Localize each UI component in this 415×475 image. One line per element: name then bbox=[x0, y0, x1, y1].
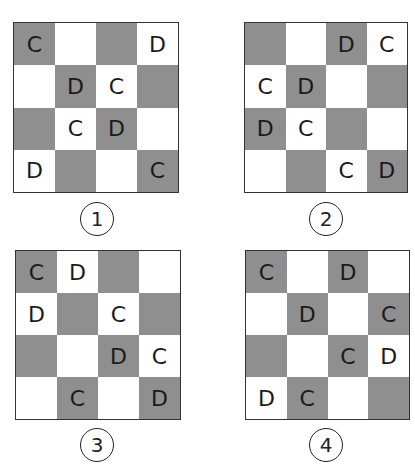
grid-cell bbox=[367, 108, 408, 150]
grid-cell bbox=[57, 293, 98, 335]
grid-cell: D bbox=[57, 251, 98, 293]
grid-cell bbox=[245, 150, 286, 192]
grid-cell: D bbox=[326, 23, 367, 65]
grid-cell: D bbox=[328, 251, 369, 293]
grid-cell bbox=[326, 65, 367, 107]
grid-cell bbox=[96, 150, 137, 192]
option-label-1[interactable]: 1 bbox=[80, 202, 114, 236]
grid-cell bbox=[245, 23, 286, 65]
grid-cell bbox=[14, 108, 55, 150]
grid-cell bbox=[96, 23, 137, 65]
grid-cell: D bbox=[286, 65, 327, 107]
grid-cell: C bbox=[326, 150, 367, 192]
grid-cell: C bbox=[368, 293, 409, 335]
grid-cell: D bbox=[246, 377, 287, 419]
grid-cell: D bbox=[245, 108, 286, 150]
grid-cell: C bbox=[14, 23, 55, 65]
grid-cell: C bbox=[246, 251, 287, 293]
grid-cell bbox=[57, 335, 98, 377]
grid-cell: D bbox=[98, 335, 139, 377]
option-label-4[interactable]: 4 bbox=[309, 428, 343, 462]
grid-cell bbox=[246, 335, 287, 377]
grid-cell: D bbox=[137, 23, 178, 65]
grid-cell bbox=[55, 23, 96, 65]
grid-cell: D bbox=[14, 150, 55, 192]
option-label-2[interactable]: 2 bbox=[309, 202, 343, 236]
grid-option-2: DCCDDCCD bbox=[244, 22, 408, 193]
grid-cell: D bbox=[287, 293, 328, 335]
grid-cell: D bbox=[96, 108, 137, 150]
grid-cell bbox=[246, 293, 287, 335]
grid-cell bbox=[328, 293, 369, 335]
grid-cell bbox=[16, 335, 57, 377]
grid-cell: C bbox=[245, 65, 286, 107]
clipped-heading-fragment bbox=[0, 0, 200, 2]
grid-cell: C bbox=[98, 293, 139, 335]
grid-cell bbox=[368, 251, 409, 293]
grid-option-1: CDDCCDDC bbox=[13, 22, 179, 193]
grid-cell bbox=[14, 65, 55, 107]
grid-cell bbox=[137, 108, 178, 150]
grid-cell: C bbox=[55, 108, 96, 150]
option-label-3[interactable]: 3 bbox=[80, 428, 114, 462]
grid-cell: C bbox=[328, 335, 369, 377]
grid-cell bbox=[328, 377, 369, 419]
grid-cell bbox=[287, 335, 328, 377]
grid-cell: C bbox=[367, 23, 408, 65]
grid-cell: D bbox=[367, 150, 408, 192]
grid-cell: C bbox=[287, 377, 328, 419]
grid-cell bbox=[55, 150, 96, 192]
grid-cell: D bbox=[16, 293, 57, 335]
grid-cell bbox=[139, 251, 180, 293]
grid-cell bbox=[16, 377, 57, 419]
grid-cell bbox=[286, 23, 327, 65]
grid-cell: D bbox=[368, 335, 409, 377]
grid-cell: C bbox=[137, 150, 178, 192]
grid-cell bbox=[139, 293, 180, 335]
grid-cell: C bbox=[16, 251, 57, 293]
grid-cell bbox=[368, 377, 409, 419]
grid-cell bbox=[326, 108, 367, 150]
grid-cell: C bbox=[286, 108, 327, 150]
grid-option-3: CDDCDCCD bbox=[15, 250, 181, 420]
grid-cell: C bbox=[139, 335, 180, 377]
grid-option-4: CDDCCDDC bbox=[245, 250, 410, 420]
grid-cell bbox=[367, 65, 408, 107]
grid-cell bbox=[98, 251, 139, 293]
grid-cell: D bbox=[139, 377, 180, 419]
grid-cell: C bbox=[96, 65, 137, 107]
grid-cell: D bbox=[55, 65, 96, 107]
grid-cell bbox=[98, 377, 139, 419]
grid-cell bbox=[137, 65, 178, 107]
grid-cell bbox=[287, 251, 328, 293]
grid-cell: C bbox=[57, 377, 98, 419]
grid-cell bbox=[286, 150, 327, 192]
